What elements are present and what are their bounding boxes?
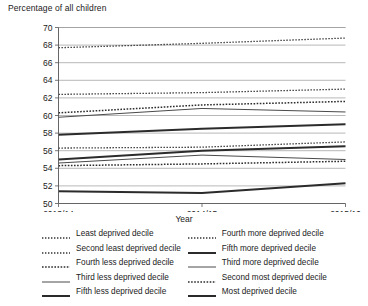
y-tick-label: 58 — [43, 128, 53, 138]
legend-label: Second most deprived decile — [222, 273, 327, 283]
legend-label: Third less deprived decile — [76, 273, 169, 283]
series-line-1 — [59, 89, 346, 94]
series-line-8 — [59, 161, 346, 165]
y-tick-label: 56 — [43, 146, 53, 156]
legend-label: Fourth less deprived decile — [76, 258, 174, 268]
legend-swatch-icon — [41, 229, 71, 239]
legend-swatch-icon — [187, 273, 217, 283]
legend-swatch-icon — [41, 287, 71, 297]
legend-item[interactable]: Second least deprived decile — [41, 243, 181, 255]
legend-swatch-icon — [187, 258, 217, 268]
y-tick-label: 60 — [43, 111, 53, 121]
y-tick-label: 52 — [43, 181, 53, 191]
legend-column-left: Least deprived decileSecond least depriv… — [41, 228, 181, 298]
legend-item[interactable]: Third more deprived decile — [187, 257, 327, 269]
chart-legend: Least deprived decileSecond least depriv… — [0, 228, 368, 298]
y-tick-label: 68 — [43, 40, 53, 50]
legend-swatch-icon — [41, 258, 71, 268]
y-tick-label: 66 — [43, 58, 53, 68]
legend-swatch-icon — [187, 287, 217, 297]
x-tick-label: 2015/16 — [330, 209, 361, 213]
legend-column-right: Fourth more deprived decileFifth more de… — [187, 228, 327, 298]
legend-swatch-icon — [41, 273, 71, 283]
x-tick-label: 2013/14 — [43, 209, 74, 213]
legend-item[interactable]: Fourth more deprived decile — [187, 228, 327, 240]
y-tick-label: 70 — [43, 23, 53, 33]
legend-item[interactable]: Second most deprived decile — [187, 272, 327, 284]
legend-swatch-icon — [187, 229, 217, 239]
legend-item[interactable]: Fourth less deprived decile — [41, 257, 181, 269]
line-chart: Percentage of all children 5052545658606… — [0, 0, 368, 306]
series-line-3 — [59, 108, 346, 117]
legend-item[interactable]: Least deprived decile — [41, 228, 181, 240]
legend-label: Fifth less deprived decile — [76, 287, 166, 297]
plot-area: 5052545658606264666870 2013/142014/15201… — [0, 0, 368, 212]
series-line-9 — [59, 183, 346, 193]
y-tick-label: 50 — [43, 199, 53, 209]
legend-label: Fifth more deprived decile — [222, 244, 316, 254]
x-tick-label: 2014/15 — [187, 209, 218, 213]
y-tick-label: 62 — [43, 93, 53, 103]
legend-item[interactable]: Fifth more deprived decile — [187, 243, 327, 255]
series-line-0 — [59, 38, 346, 48]
x-axis-ticks: 2013/142014/152015/16 — [43, 204, 361, 213]
gridlines — [59, 28, 346, 186]
legend-item[interactable]: Third less deprived decile — [41, 272, 181, 284]
legend-label: Second least deprived decile — [76, 244, 181, 254]
y-tick-label: 54 — [43, 163, 53, 173]
legend-item[interactable]: Fifth less deprived decile — [41, 286, 181, 298]
y-axis-ticks: 5052545658606264666870 — [43, 23, 58, 209]
legend-label: Third more deprived decile — [222, 258, 319, 268]
x-axis-title: Year — [0, 214, 368, 224]
legend-item[interactable]: Most deprived decile — [187, 286, 327, 298]
legend-label: Most deprived decile — [222, 287, 297, 297]
legend-swatch-icon — [41, 244, 71, 254]
legend-label: Fourth more deprived decile — [222, 229, 324, 239]
legend-swatch-icon — [187, 244, 217, 254]
y-tick-label: 64 — [43, 75, 53, 85]
legend-label: Least deprived decile — [76, 229, 153, 239]
